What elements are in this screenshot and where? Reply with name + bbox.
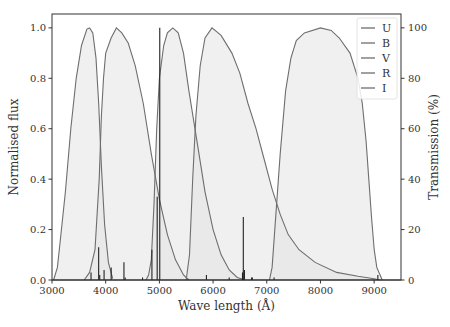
y-right-tick-label: 0 xyxy=(408,275,414,286)
y-axis-left-ticks: 0.00.20.40.60.81.0 xyxy=(30,22,52,285)
y-right-tick-label: 20 xyxy=(408,224,421,235)
y-right-tick-label: 60 xyxy=(408,123,421,134)
x-tick-label: 7000 xyxy=(254,285,279,296)
legend-label: B xyxy=(382,37,390,50)
legend-label: U xyxy=(382,22,391,35)
y-right-tick-label: 100 xyxy=(408,22,427,33)
y-tick-label: 0.2 xyxy=(30,224,46,235)
legend-label: I xyxy=(382,82,386,95)
y-tick-label: 0.6 xyxy=(30,123,46,134)
y-right-tick-label: 80 xyxy=(408,73,421,84)
legend-label: V xyxy=(381,52,391,65)
filter-fills xyxy=(54,28,383,280)
x-tick-label: 3000 xyxy=(39,285,64,296)
legend-label: R xyxy=(382,67,391,80)
y-tick-label: 1.0 xyxy=(30,22,46,33)
legend: UBVRI xyxy=(357,18,397,99)
x-tick-label: 6000 xyxy=(200,285,225,296)
y-axis-left-label: Normalised flux xyxy=(7,98,21,195)
x-tick-label: 8000 xyxy=(308,285,333,296)
filter-transmission-chart: 3000400050006000700080009000 0.00.20.40.… xyxy=(0,0,450,327)
y-axis-right-label: Transmission (%) xyxy=(427,94,441,200)
y-axis-right-ticks: 020406080100 xyxy=(401,22,427,285)
y-tick-label: 0.0 xyxy=(30,275,46,286)
x-tick-label: 9000 xyxy=(361,285,386,296)
y-right-tick-label: 40 xyxy=(408,174,421,185)
y-tick-label: 0.4 xyxy=(30,174,46,185)
x-axis-ticks: 3000400050006000700080009000 xyxy=(39,280,387,296)
x-tick-label: 4000 xyxy=(93,285,118,296)
x-tick-label: 5000 xyxy=(147,285,172,296)
y-tick-label: 0.8 xyxy=(30,73,46,84)
x-axis-label: Wave length (Å) xyxy=(178,298,275,313)
